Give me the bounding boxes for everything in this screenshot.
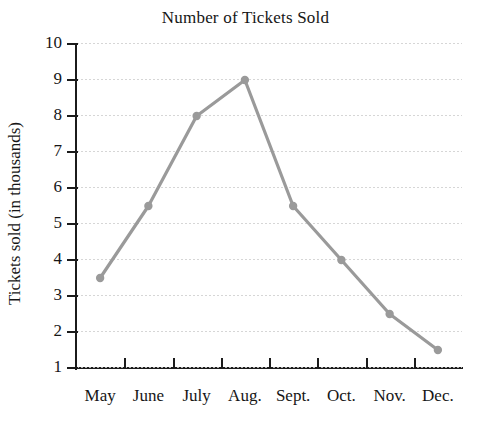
gridline: [77, 223, 462, 224]
y-axis-tick-label: 2: [32, 321, 62, 341]
gridline: [77, 43, 462, 44]
data-point: [96, 274, 104, 282]
gridline: [77, 295, 462, 296]
gridline: [77, 259, 462, 260]
y-axis-tick-label: 10: [32, 33, 62, 53]
x-axis-tick: [173, 358, 175, 369]
y-axis-tick: [67, 223, 78, 225]
y-axis-tick-label: 5: [32, 213, 62, 233]
y-axis-tick-label: 8: [32, 105, 62, 125]
gridline: [77, 331, 462, 332]
y-axis-title: Tickets sold (in thousands): [2, 0, 28, 427]
data-point: [289, 202, 297, 210]
y-axis-tick: [67, 115, 78, 117]
y-axis-tick: [67, 295, 78, 297]
gridline: [77, 151, 462, 152]
y-axis-tick-label: 7: [32, 141, 62, 161]
x-axis-tick: [366, 358, 368, 369]
series-markers: [96, 76, 442, 354]
data-point: [337, 256, 345, 264]
y-axis-tick-label: 6: [32, 177, 62, 197]
y-axis-tick: [67, 259, 78, 261]
x-axis-tick: [414, 358, 416, 369]
y-axis-tick: [67, 151, 78, 153]
data-point: [434, 346, 442, 354]
y-axis-tick-label: 1: [32, 357, 62, 377]
y-axis-tick: [67, 43, 78, 45]
data-point: [385, 310, 393, 318]
y-axis-tick: [67, 331, 78, 333]
x-axis-tick-label: Dec.: [403, 386, 473, 406]
data-series-layer: [0, 0, 491, 427]
data-point: [241, 76, 249, 84]
y-axis-tick-label: 9: [32, 69, 62, 89]
chart-title: Number of Tickets Sold: [0, 8, 491, 28]
gridline: [77, 187, 462, 188]
data-point: [144, 202, 152, 210]
x-axis-tick: [221, 358, 223, 369]
x-axis-tick: [269, 358, 271, 369]
line-chart: Number of Tickets Sold Tickets sold (in …: [0, 0, 491, 427]
y-axis-tick-label: 3: [32, 285, 62, 305]
y-axis-tick-label: 4: [32, 249, 62, 269]
gridline: [77, 115, 462, 116]
gridline: [77, 79, 462, 80]
y-axis-line: [75, 43, 77, 370]
data-point: [192, 112, 200, 120]
x-axis-tick: [317, 358, 319, 369]
y-axis-tick: [67, 187, 78, 189]
y-axis-tick: [67, 367, 78, 369]
x-axis-tick: [124, 358, 126, 369]
y-axis-tick: [67, 79, 78, 81]
series-line: [100, 80, 438, 350]
